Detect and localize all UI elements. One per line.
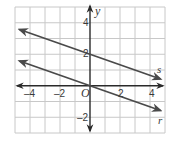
y-tick-label-4: 4 <box>83 17 89 28</box>
graph-svg: –4 –2 O 2 4 4 2 –2 y s r <box>0 0 175 142</box>
x-tick-label-2: 2 <box>118 88 124 99</box>
line-s-label: s <box>157 63 161 75</box>
x-tick-label-neg4: –4 <box>24 88 36 99</box>
origin-label: O <box>81 86 90 100</box>
y-tick-label-2: 2 <box>83 48 89 59</box>
x-tick-label-neg2: –2 <box>54 88 66 99</box>
y-tick-label-neg2: –2 <box>77 112 89 123</box>
y-axis-label: y <box>94 4 101 18</box>
line-r-label: r <box>158 114 163 126</box>
x-tick-label-4: 4 <box>149 88 155 99</box>
coordinate-plane: –4 –2 O 2 4 4 2 –2 y s r <box>0 0 175 142</box>
